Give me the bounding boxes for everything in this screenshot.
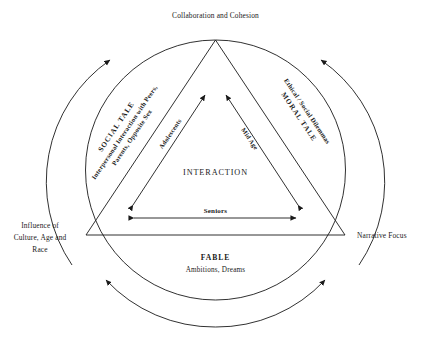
outer-arc-bottom-right-arrow — [216, 280, 326, 327]
label-collaboration-and-cohesion: Collaboration and Cohesion — [172, 11, 259, 20]
label-influence-line2: Culture, Age and — [14, 233, 67, 242]
label-seniors: Seniors — [204, 207, 228, 215]
mid-age-label-group: Mid Age — [240, 126, 260, 150]
moral-tale-label-group: MORAL TALE Ethical / Social Dilemmas — [274, 77, 332, 151]
label-fable-subtitle: Ambitions, Dreams — [186, 266, 246, 274]
label-influence-line3: Race — [32, 245, 48, 254]
label-fable-title: FABLE — [201, 253, 230, 262]
label-social-tale-subtitle-line1: Interpersonal Interaction with Peers, — [90, 84, 158, 181]
social-tale-label-group: SOCIAL TALE Interpersonal Interaction wi… — [81, 78, 166, 186]
label-influence-line1: Influence of — [21, 221, 59, 230]
label-narrative-focus: Narrative Focus — [357, 231, 407, 240]
label-mid-age: Mid Age — [240, 126, 260, 150]
label-interaction: INTERACTION — [183, 168, 248, 177]
outer-arc-bottom-left-arrow — [106, 280, 216, 327]
conceptual-diagram-svg: Collaboration and Cohesion Influence of … — [0, 0, 429, 344]
mid-age-arrow — [226, 95, 298, 205]
diagram-canvas: Collaboration and Cohesion Influence of … — [0, 0, 429, 344]
